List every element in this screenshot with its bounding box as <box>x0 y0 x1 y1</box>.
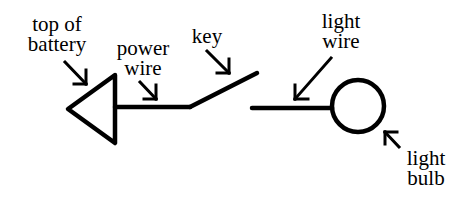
key-arrow-icon <box>207 51 229 73</box>
label-line: wire <box>112 58 174 78</box>
label-line: light <box>316 11 366 31</box>
label-line: power <box>112 38 174 58</box>
label-line: key <box>187 26 227 46</box>
key-switch <box>190 73 257 107</box>
label-light-bulb: light bulb <box>402 148 450 188</box>
light-bulb-arrow-icon <box>385 132 399 147</box>
label-key: key <box>187 26 227 46</box>
label-line: light <box>402 148 450 168</box>
label-line: top of <box>22 14 92 34</box>
battery-arrow-icon <box>65 62 86 84</box>
light-wire-arrow-icon <box>295 58 331 99</box>
label-top-of-battery: top of battery <box>22 14 92 54</box>
label-line: wire <box>316 31 366 51</box>
label-line: bulb <box>402 168 450 188</box>
circuit-diagram: top of battery power wire key light wire… <box>0 0 468 197</box>
label-power-wire: power wire <box>112 38 174 78</box>
label-light-wire: light wire <box>316 11 366 51</box>
power-wire-arrow-icon <box>140 82 156 99</box>
label-line: battery <box>22 34 92 54</box>
light-bulb <box>332 80 384 132</box>
